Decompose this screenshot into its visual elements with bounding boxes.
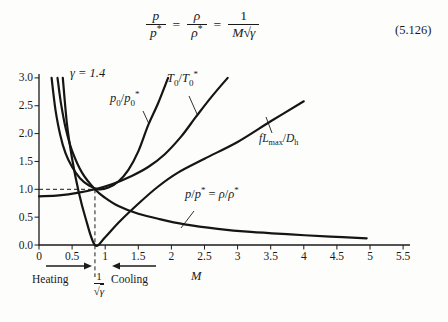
cooling-label: Cooling — [111, 274, 148, 286]
isothermal-flow-figure: p p* = ρ ρ* = 1 M√γ (5.126) γ = 1.4 p0/p… — [0, 0, 448, 322]
x-tick-label: 0.5 — [57, 251, 87, 263]
x-tick-label: 1 — [90, 251, 120, 263]
x-tick-label: 5.5 — [388, 251, 418, 263]
curve-label-flmax-dh: fLmax/Dh — [259, 133, 299, 145]
y-tick-label: 0.0 — [7, 240, 33, 252]
label-leader-line — [189, 96, 197, 114]
curve-p-p- — [58, 78, 367, 238]
arrowhead — [84, 263, 92, 270]
x-tick-label: 2 — [156, 251, 186, 263]
x-tick-label: 2.5 — [190, 251, 220, 263]
curve-label-p-pstar: p/p* = ρ/ρ* — [185, 188, 239, 201]
x-tick-label: 3.5 — [256, 251, 286, 263]
label-leader-line — [266, 117, 272, 133]
heating-label: Heating — [32, 274, 68, 286]
curve-label-p0-ratio: p0/p0* — [110, 92, 139, 105]
y-tick-label: 2.5 — [7, 100, 33, 112]
critical-mach-fraction: 1 √γ — [86, 270, 112, 297]
x-axis-label: M — [191, 270, 201, 283]
y-tick-label: 3.0 — [7, 72, 33, 84]
arrowhead — [112, 263, 120, 270]
x-tick-label: 3 — [223, 251, 253, 263]
y-tick-label: 1.0 — [7, 184, 33, 196]
y-tick-label: 2.0 — [7, 128, 33, 140]
label-leader-line — [143, 111, 149, 124]
x-tick-label: 5 — [355, 251, 385, 263]
curve-flmax-dh — [63, 78, 304, 246]
x-tick-label: 1.5 — [123, 251, 153, 263]
x-tick-label: 4 — [289, 251, 319, 263]
y-tick-label: 0.5 — [7, 212, 33, 224]
curve-label-t0-ratio: T0/T0* — [167, 72, 198, 85]
x-tick-label: 0 — [24, 251, 54, 263]
gamma-value-label: γ = 1.4 — [70, 67, 105, 80]
x-tick-label: 4.5 — [322, 251, 352, 263]
y-tick-label: 1.5 — [7, 156, 33, 168]
